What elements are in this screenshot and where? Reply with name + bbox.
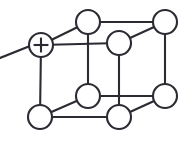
lattice-node-front-top-right xyxy=(107,31,131,55)
node-layer xyxy=(28,10,177,129)
stub-layer xyxy=(0,46,30,58)
lattice-node-front-top-left xyxy=(29,33,53,57)
lattice-node-back-bottom-left xyxy=(76,84,100,108)
lattice-node-back-bottom-right xyxy=(153,84,177,108)
node-circle-front-bottom-left xyxy=(28,105,52,129)
lattice-node-back-top-right xyxy=(153,10,177,34)
node-circle-back-top-left xyxy=(76,10,100,34)
node-circle-front-top-right xyxy=(107,31,131,55)
node-circle-back-bottom-left xyxy=(76,84,100,108)
node-circle-back-top-right xyxy=(153,10,177,34)
lattice-node-front-bottom-right xyxy=(107,105,131,129)
stub-left xyxy=(0,46,30,58)
edge-layer xyxy=(40,22,165,117)
lattice-canvas xyxy=(0,0,188,142)
lattice-node-back-top-left xyxy=(76,10,100,34)
lattice-diagram xyxy=(0,0,188,142)
node-circle-back-bottom-right xyxy=(153,84,177,108)
lattice-node-front-bottom-left xyxy=(28,105,52,129)
node-circle-front-bottom-right xyxy=(107,105,131,129)
